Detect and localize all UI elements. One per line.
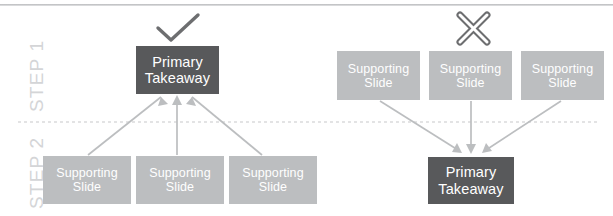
box-line-1: Primary bbox=[152, 54, 203, 70]
arrows-down-group bbox=[380, 101, 561, 154]
box-line-1: Supporting bbox=[348, 62, 409, 76]
box-line-2: Slide bbox=[166, 180, 194, 194]
primary-takeaway-box-correct[interactable]: Primary Takeaway bbox=[136, 46, 219, 94]
box-line-1: Primary bbox=[446, 164, 497, 180]
box-line-1: Supporting bbox=[440, 62, 501, 76]
supporting-slide-box[interactable]: Supporting Slide bbox=[229, 156, 317, 204]
supporting-slide-box[interactable]: Supporting Slide bbox=[429, 51, 512, 100]
diagram-canvas: STEP 1 STEP 2 bbox=[0, 0, 613, 216]
check-icon bbox=[158, 15, 198, 40]
box-line-2: Takeaway bbox=[438, 181, 503, 197]
box-line-1: Supporting bbox=[56, 166, 117, 180]
box-line-2: Slide bbox=[259, 180, 287, 194]
supporting-slide-box[interactable]: Supporting Slide bbox=[521, 51, 604, 100]
box-line-1: Supporting bbox=[149, 166, 210, 180]
box-line-2: Slide bbox=[548, 76, 576, 90]
box-line-2: Slide bbox=[456, 76, 484, 90]
box-line-1: Supporting bbox=[532, 62, 593, 76]
cross-icon bbox=[460, 15, 487, 42]
primary-takeaway-box-incorrect[interactable]: Primary Takeaway bbox=[428, 157, 514, 204]
box-line-2: Slide bbox=[364, 76, 392, 90]
box-line-1: Supporting bbox=[242, 166, 303, 180]
supporting-slide-box[interactable]: Supporting Slide bbox=[43, 156, 131, 204]
box-line-2: Slide bbox=[73, 180, 101, 194]
supporting-slide-box[interactable]: Supporting Slide bbox=[136, 156, 224, 204]
supporting-slide-box[interactable]: Supporting Slide bbox=[337, 51, 420, 100]
arrows-up-group bbox=[88, 95, 262, 155]
box-line-2: Takeaway bbox=[145, 70, 210, 86]
